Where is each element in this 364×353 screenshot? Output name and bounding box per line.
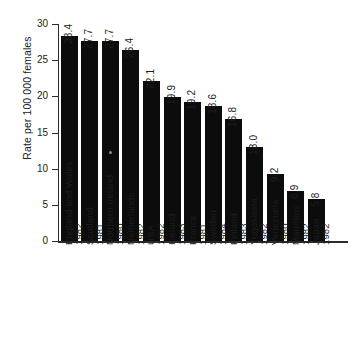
x-category-year: 1984 [218, 223, 228, 245]
scan-artifact-speck [109, 151, 112, 154]
y-tick-label: 5 [26, 199, 48, 210]
bar-chart: Rate per 100 000 females 051015202530 28… [0, 0, 364, 353]
bar-value-label: 6.9 [289, 185, 300, 200]
x-category-year: 1980 [280, 223, 290, 245]
bar-value-label: 19.9 [166, 85, 177, 105]
x-category-label: Scotland [85, 207, 95, 245]
y-tick-30 [52, 24, 58, 25]
y-tick-label: 15 [26, 127, 48, 138]
y-tick-0 [52, 241, 58, 242]
x-category-year: 1983 [239, 223, 249, 245]
x-category-year: 1982 [136, 223, 146, 245]
y-tick-label: 10 [26, 163, 48, 174]
y-tick-5 [52, 205, 58, 206]
bar-value-label: 27.7 [83, 28, 94, 48]
x-category-label: Mauritius [291, 206, 301, 245]
y-tick-label: 0 [26, 235, 48, 246]
x-category-year: 1982 [259, 223, 269, 245]
bar-value-label: 27.7 [104, 28, 115, 48]
y-tick-label: 20 [26, 90, 48, 101]
bar-value-label: 19.2 [186, 90, 197, 110]
y-tick-25 [52, 60, 58, 61]
bar-value-label: 26.4 [124, 38, 135, 58]
x-category-year: 1980 [115, 223, 125, 245]
bar-value-label: 18.6 [207, 94, 218, 114]
bar-value-label: 22.1 [145, 69, 156, 89]
x-category-year: 1983 [177, 223, 187, 245]
x-category-year: 1981 [95, 223, 105, 245]
bar-value-label: 9.2 [269, 168, 280, 183]
x-category-year: 1982 [301, 223, 311, 245]
y-tick-label: 30 [26, 18, 48, 29]
bar-value-label: 28.4 [63, 23, 74, 43]
x-category-year: 1981 [198, 223, 208, 245]
bar-value-label: 13.0 [248, 135, 259, 155]
x-category-label: Finland [229, 213, 239, 245]
y-axis-title: Rate per 100 000 females [14, 0, 40, 218]
x-category-year: 1982 [74, 223, 84, 245]
x-category-label: Netherlands [126, 193, 136, 245]
y-axis-line [58, 24, 59, 242]
x-category-year: 1982 [156, 223, 166, 245]
y-tick-15 [52, 133, 58, 134]
x-category-label: France [188, 215, 198, 245]
y-tick-label: 25 [26, 54, 48, 65]
y-tick-10 [52, 169, 58, 170]
bar [143, 81, 160, 241]
x-category-year: 1982 [321, 223, 331, 245]
bar-value-label: 16.8 [227, 107, 238, 127]
y-tick-20 [52, 96, 58, 97]
bar-value-label: 5.8 [310, 193, 321, 208]
